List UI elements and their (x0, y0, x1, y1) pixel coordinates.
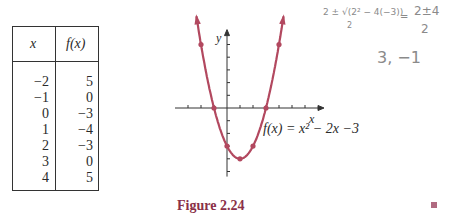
handwritten-roots: 3, −1 (377, 48, 421, 67)
handwritten-result-numerator: 2±4 (414, 4, 439, 18)
handwritten-result-denominator: 2 (421, 22, 429, 36)
end-of-example-marker (431, 202, 437, 208)
figure-caption: Figure 2.24 (177, 198, 244, 214)
y-axis-label: y (216, 31, 221, 46)
handwritten-formula-numerator: 2 ± √(2² − 4(−3)) (323, 7, 403, 17)
parabola-graph (0, 0, 454, 221)
function-equation: f(x) = x² − 2x −3 (263, 121, 359, 137)
handwritten-formula-denominator: 2 (347, 21, 352, 30)
handwritten-equals: = (400, 11, 408, 22)
